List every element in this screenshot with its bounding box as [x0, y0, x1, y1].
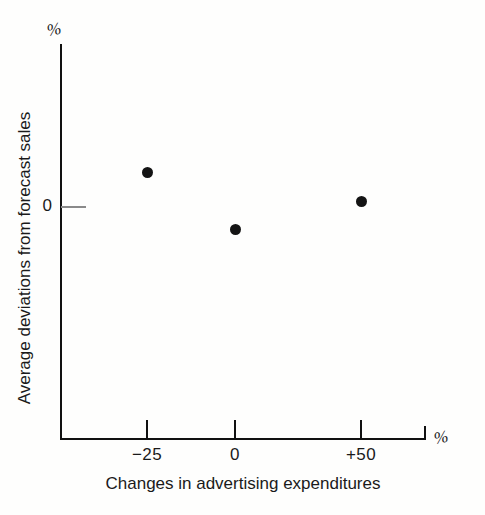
- data-point: [142, 167, 153, 178]
- chart-figure: % % 0 −25 0 +50 Changes in advertising e…: [0, 0, 485, 515]
- x-axis-end-tick: [424, 426, 426, 439]
- x-axis-tick-label-plus50: +50: [346, 445, 376, 465]
- x-axis-title: Changes in advertising expenditures: [60, 474, 426, 494]
- x-axis-tick-label-minus25: −25: [132, 445, 162, 465]
- y-axis-title: Average deviations from forecast sales: [15, 93, 35, 423]
- y-axis-title-wrap: Average deviations from forecast sales: [0, 0, 44, 515]
- x-axis-tick-minus25: [146, 420, 148, 439]
- x-axis-line: [60, 438, 426, 440]
- x-axis-tick-label-zero: 0: [230, 445, 240, 465]
- data-point: [356, 196, 367, 207]
- data-point: [230, 224, 241, 235]
- y-axis-line: [60, 44, 62, 440]
- x-axis-tick-plus50: [360, 420, 362, 439]
- y-axis-tick-zero: [61, 206, 86, 208]
- x-axis-tick-zero: [234, 420, 236, 439]
- x-axis-percent-symbol: %: [432, 427, 450, 450]
- y-axis-percent-symbol: %: [45, 19, 63, 42]
